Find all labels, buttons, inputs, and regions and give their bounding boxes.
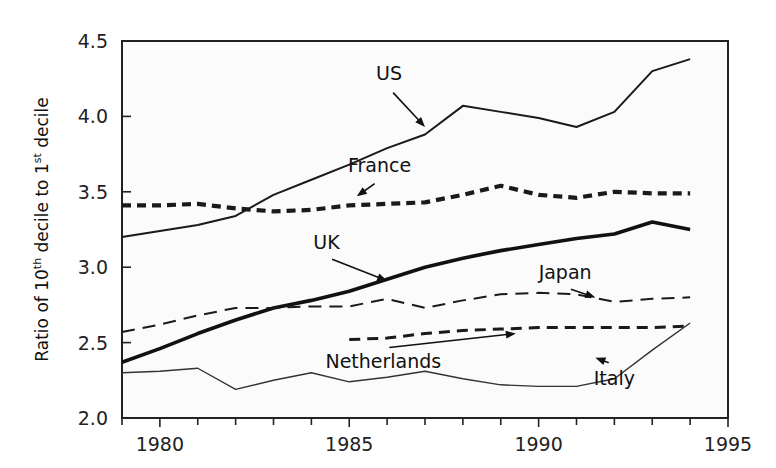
x-axis-tick-labels: 1980198519901995 [136, 433, 752, 455]
y-tick-label: 2.0 [78, 407, 108, 429]
y-axis-title: Ratio of 10th decile to 1st decile [31, 97, 52, 361]
series-label-netherlands: Netherlands [325, 350, 441, 372]
x-tick-label: 1980 [136, 433, 184, 455]
x-tick-label: 1990 [514, 433, 562, 455]
ratio-decile-line-chart: 2.02.53.03.54.04.5 1980198519901995 USFr… [0, 0, 776, 468]
y-tick-label: 3.5 [78, 181, 108, 203]
x-tick-label: 1985 [325, 433, 373, 455]
series-label-italy: Italy [594, 367, 635, 389]
y-axis-tick-labels: 2.02.53.03.54.04.5 [78, 30, 108, 429]
chart-container: 2.02.53.03.54.04.5 1980198519901995 USFr… [0, 0, 776, 468]
y-axis-title-text: Ratio of 10th decile to 1st decile [31, 97, 52, 361]
y-tick-label: 3.0 [78, 256, 108, 278]
x-tick-label: 1995 [704, 433, 752, 455]
y-tick-label: 4.5 [78, 30, 108, 52]
series-label-us: US [376, 62, 402, 84]
series-label-uk: UK [313, 231, 340, 253]
y-tick-label: 2.5 [78, 332, 108, 354]
y-axis-title-group: Ratio of 10th decile to 1st decile [31, 97, 52, 361]
series-label-japan: Japan [538, 261, 592, 283]
y-tick-label: 4.0 [78, 105, 108, 127]
series-label-france: France [348, 154, 411, 176]
